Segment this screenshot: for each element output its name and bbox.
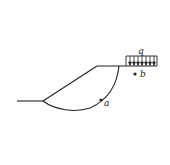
load-arrows — [129, 56, 156, 66]
load-label-q: q — [138, 46, 144, 56]
slope-diagram: q a b — [0, 0, 170, 165]
point-b-label: b — [140, 69, 146, 79]
point-b-marker — [133, 72, 136, 75]
point-a-label: a — [104, 98, 109, 108]
surcharge-load — [126, 56, 157, 66]
point-a-marker — [99, 98, 102, 101]
slope-face-line — [43, 66, 97, 101]
